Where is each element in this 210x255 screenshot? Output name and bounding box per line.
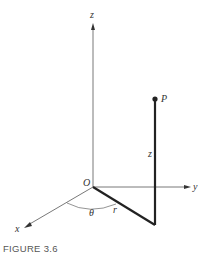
y-axis-label: y	[192, 181, 198, 192]
z-axis-arrowhead	[91, 23, 95, 30]
x-axis	[28, 187, 93, 225]
x-axis-label: x	[14, 223, 20, 234]
radius-label: r	[113, 204, 117, 215]
figure-caption: FIGURE 3.6	[3, 243, 58, 254]
height-label: z	[147, 148, 152, 159]
theta-label: θ	[89, 207, 94, 218]
cylindrical-coordinates-diagram: z y x O P z r θ FIGURE 3.6	[0, 0, 210, 255]
point-label: P	[160, 93, 167, 104]
y-axis-arrowhead	[184, 185, 191, 189]
radius-line	[93, 187, 155, 225]
point-p	[152, 96, 157, 101]
z-axis-label: z	[89, 9, 94, 20]
origin-label: O	[83, 177, 90, 188]
